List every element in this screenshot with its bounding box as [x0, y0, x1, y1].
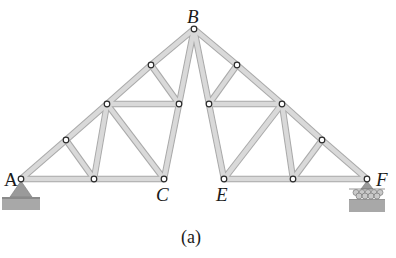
label-b: B: [187, 7, 199, 26]
truss-members-outline: [21, 29, 367, 179]
joint-R2: [206, 101, 212, 107]
truss-members: [21, 29, 367, 179]
member-L3-L4: [151, 65, 179, 104]
label-a: A: [4, 170, 18, 189]
joint-E: [221, 176, 227, 182]
member-L2-C: [107, 104, 164, 179]
label-e: E: [216, 185, 228, 204]
joint-L1: [63, 137, 69, 143]
joint-L3: [148, 62, 154, 68]
joint-L2: [104, 101, 110, 107]
member-L4-C: [164, 104, 179, 179]
joint-R5: [290, 176, 296, 182]
joint-A: [18, 176, 24, 182]
joint-L5: [91, 176, 97, 182]
joint-R1: [234, 62, 240, 68]
member-R4-F: [322, 140, 367, 179]
joint-R4: [319, 137, 325, 143]
member-R5-R4: [293, 140, 322, 179]
truss-diagram: [0, 0, 396, 258]
label-f: F: [376, 170, 388, 189]
member-L1-L5: [66, 140, 94, 179]
truss-joints: [18, 26, 370, 182]
joint-L4: [176, 101, 182, 107]
label-c: C: [156, 185, 169, 204]
member-L2-L3: [107, 65, 151, 104]
member-R2-E: [209, 104, 224, 179]
member-R1-R3: [237, 65, 282, 104]
member-A-L1: [21, 140, 66, 179]
joint-R3: [279, 101, 285, 107]
member-R1-R2: [209, 65, 237, 104]
joint-F: [364, 176, 370, 182]
joint-B: [191, 26, 197, 32]
joint-C: [161, 176, 167, 182]
member-E-R3: [224, 104, 282, 179]
figure-caption: (a): [181, 228, 201, 246]
